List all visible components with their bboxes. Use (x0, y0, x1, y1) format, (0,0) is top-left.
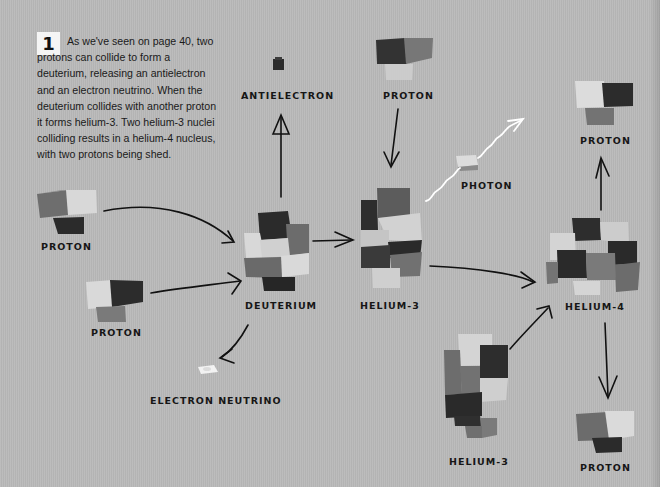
label-proton-left-bottom: PROTON (91, 327, 142, 338)
label-photon: PHOTON (461, 180, 513, 191)
helium3-top-bricks (361, 188, 422, 288)
arrow-proton-to-deuterium-bottom (151, 281, 240, 293)
label-proton-right-bottom: PROTON (580, 462, 631, 473)
antielectron-brick (273, 57, 284, 70)
proton-right-bottom-bricks (576, 411, 634, 453)
arrow-deuterium-to-neutrino (222, 325, 248, 357)
step-description: As we've seen on page 40, two protons ca… (37, 33, 217, 163)
arrow-proton-to-deuterium-top (104, 207, 233, 241)
arrow-deuterium-to-helium3 (313, 240, 351, 241)
electron-neutrino-brick (198, 365, 218, 374)
label-helium3-bottom: HELIUM-3 (449, 456, 509, 467)
deuterium-bricks (244, 211, 309, 291)
label-antielectron: ANTIELECTRON (241, 90, 334, 101)
proton-left-top-bricks (37, 190, 97, 234)
label-helium4: HELIUM-4 (565, 301, 625, 312)
label-proton-top: PROTON (383, 90, 434, 101)
arrow-helium3-to-helium4 (430, 266, 533, 282)
proton-left-bottom-bricks (86, 280, 143, 322)
label-proton-right-top: PROTON (580, 135, 631, 146)
helium3-bottom-bricks (444, 334, 508, 438)
arrow-helium4-to-proton-bottom (605, 323, 608, 396)
proton-top-bricks (375, 8, 433, 80)
label-proton-left-top: PROTON (41, 241, 92, 252)
label-helium3-top: HELIUM-3 (360, 300, 420, 311)
label-deuterium: DEUTERIUM (245, 300, 317, 311)
helium4-bricks (546, 218, 640, 295)
proton-right-top-bricks (575, 81, 633, 125)
label-electron-neutrino: ELECTRON NEUTRINO (150, 395, 282, 406)
arrow-helium3-bottom-to-helium4 (510, 308, 548, 349)
